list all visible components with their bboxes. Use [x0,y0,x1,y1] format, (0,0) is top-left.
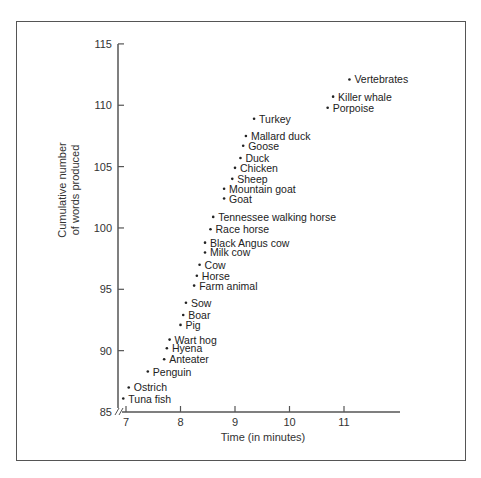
point-marker [147,370,150,373]
data-point: Anteater [163,353,209,365]
y-tick-label: 90 [100,345,112,357]
data-point: Turkey [253,113,292,125]
data-point: Farm animal [193,280,258,292]
data-point: Sow [185,297,212,309]
point-label: Goat [229,193,252,205]
point-marker [179,324,182,327]
point-marker [122,397,125,400]
y-axis-title-line-1: Cumulative number [56,142,68,238]
x-tick-label: 11 [338,416,349,428]
point-marker [182,314,185,317]
y-tick-label: 110 [94,99,112,111]
point-marker [242,144,245,147]
point-marker [185,301,188,304]
point-label: Milk cow [210,246,251,258]
data-point: Tennessee walking horse [212,211,336,223]
point-label: Race horse [215,223,269,235]
x-tick-label: 7 [123,416,129,428]
scatter-chart: 859095100105110115 7891011 VertebratesKi… [0,0,481,478]
point-label: Sow [191,297,212,309]
x-tick-label: 9 [232,416,238,428]
point-marker [166,347,169,350]
point-label: Anteater [169,353,209,365]
y-axis-title: Cumulative number of words produced [56,142,81,238]
point-marker [168,338,171,341]
point-marker [204,251,207,254]
point-marker [231,178,234,181]
point-marker [348,78,351,81]
axis-break-mark [115,408,119,415]
point-marker [209,228,212,231]
point-marker [239,157,242,160]
point-label: Porpoise [333,102,375,114]
y-tick-label: 95 [100,283,112,295]
x-axis: 7891011 [122,406,400,428]
point-marker [332,95,335,98]
point-label: Tuna fish [128,393,171,405]
point-marker [204,241,207,244]
data-point: Goat [223,193,252,205]
point-marker [212,216,215,219]
point-marker [127,386,130,389]
point-marker [245,135,248,138]
data-point: Race horse [209,223,269,235]
point-label: Vertebrates [354,73,408,85]
y-tick-label: 85 [100,406,112,418]
data-point: Penguin [147,366,192,378]
point-marker [196,275,199,278]
point-marker [223,197,226,200]
data-point: Goose [242,140,279,152]
point-label: Tennessee walking horse [218,211,336,223]
point-marker [253,117,256,120]
data-point: Pig [179,319,201,331]
data-point: Vertebrates [348,73,408,85]
y-axis: 859095100105110115 [94,38,124,418]
y-tick-label: 105 [94,161,112,173]
y-tick-label: 115 [94,38,112,50]
x-axis-title: Time (in minutes) [221,431,306,443]
x-tick-label: 8 [177,416,183,428]
point-label: Farm animal [199,280,257,292]
x-tick-label: 10 [283,416,295,428]
point-marker [223,187,226,190]
data-points: VertebratesKiller whalePorpoiseTurkeyMal… [122,73,408,404]
point-label: Goose [248,140,279,152]
point-marker [326,106,329,109]
data-point: Porpoise [326,102,374,114]
y-tick-label: 100 [94,222,112,234]
data-point: Tuna fish [122,393,171,405]
point-marker [193,284,196,287]
point-marker [234,167,237,170]
point-label: Pig [186,319,201,331]
point-label: Penguin [153,366,192,378]
point-label: Turkey [259,113,291,125]
point-marker [163,358,166,361]
point-marker [198,263,201,266]
y-axis-title-line-2: of words produced [69,145,81,236]
data-point: Milk cow [204,246,251,258]
